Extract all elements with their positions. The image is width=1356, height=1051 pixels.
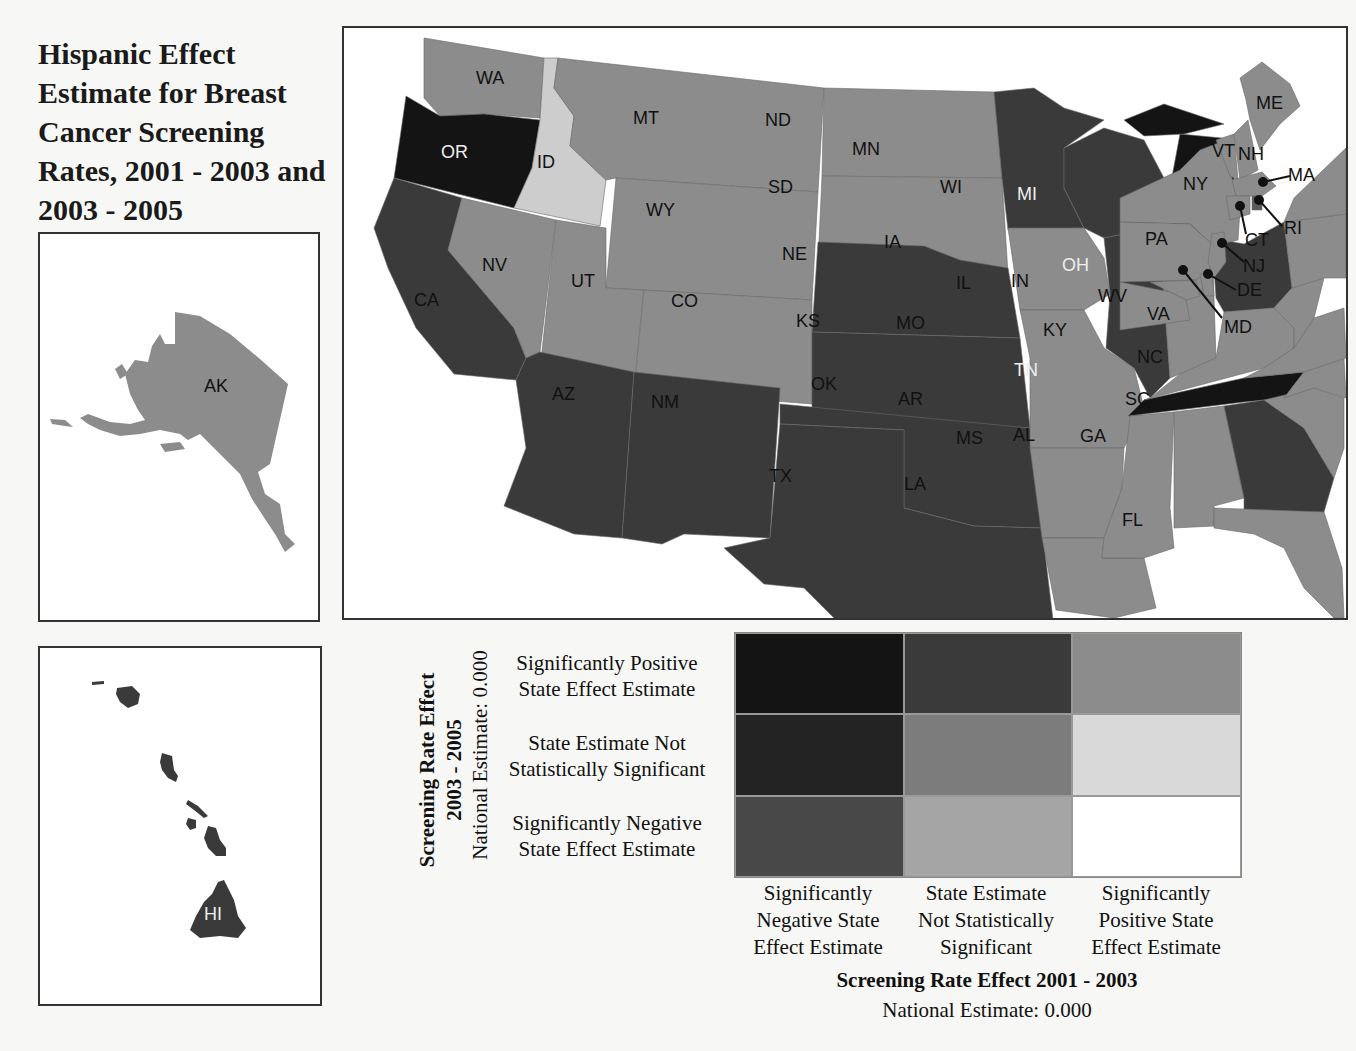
state-label-AZ: AZ	[552, 384, 575, 404]
legend-row-positive-line2: State Effect Estimate	[494, 676, 720, 702]
state-label-CT: CT	[1245, 230, 1269, 250]
state-label-TN: TN	[1014, 360, 1038, 380]
legend-row-ns-line2: Statistically Significant	[494, 756, 720, 782]
legend-cell-pos-ns	[904, 633, 1073, 714]
state-label-WV: WV	[1098, 286, 1127, 306]
state-label-TX: TX	[769, 466, 792, 486]
legend-cell-pos-neg	[735, 633, 904, 714]
legend-y-title-line2: 2003 - 2005	[441, 640, 468, 900]
state-label-CO: CO	[671, 291, 698, 311]
legend-row-negative-line1: Significantly Negative	[494, 810, 720, 836]
legend-col-negative-line2: Negative State	[734, 907, 902, 934]
state-label-MN: MN	[852, 139, 880, 159]
legend-row-positive: Significantly Positive State Effect Esti…	[494, 650, 720, 702]
legend-cell-neg-ns	[904, 796, 1073, 877]
state-label-WA: WA	[476, 68, 504, 88]
legend-cell-neg-neg	[735, 796, 904, 877]
legend-col-positive-line1: Significantly	[1072, 880, 1240, 907]
legend-row-positive-line1: Significantly Positive	[494, 650, 720, 676]
state-label-NJ: NJ	[1243, 256, 1265, 276]
legend-cell-ns-ns	[904, 714, 1073, 795]
legend-col-negative-line3: Effect Estimate	[734, 934, 902, 961]
state-label-LA: LA	[904, 474, 926, 494]
state-label-DE: DE	[1237, 280, 1262, 300]
legend-col-positive: Significantly Positive State Effect Esti…	[1072, 880, 1240, 961]
legend-y-axis-title: Screening Rate Effect 2003 - 2005	[414, 640, 474, 900]
state-label-IL: IL	[956, 273, 971, 293]
state-label-WY: WY	[646, 200, 675, 220]
legend-row-negative-line2: State Effect Estimate	[494, 836, 720, 862]
state-label-RI: RI	[1284, 218, 1302, 238]
state-MA	[1232, 172, 1276, 196]
state-label-NC: NC	[1137, 347, 1163, 367]
state-label-NE: NE	[782, 244, 807, 264]
legend-cell-pos-pos	[1072, 633, 1241, 714]
state-label-MT: MT	[633, 108, 659, 128]
state-label-IA: IA	[884, 232, 901, 252]
legend-col-positive-line2: Positive State	[1072, 907, 1240, 934]
state-label-SC: SC	[1125, 389, 1150, 409]
legend-cell-ns-pos	[1072, 714, 1241, 795]
legend-col-ns-line1: State Estimate	[902, 880, 1070, 907]
state-label-KY: KY	[1043, 320, 1067, 340]
state-label-IN: IN	[1011, 271, 1029, 291]
state-label-AR: AR	[898, 389, 923, 409]
state-label-MS: MS	[956, 428, 983, 448]
legend-y-title-line1: Screening Rate Effect	[414, 640, 441, 900]
state-label-NM: NM	[651, 392, 679, 412]
legend-cell-neg-pos	[1072, 796, 1241, 877]
state-label-MD: MD	[1224, 317, 1252, 337]
legend-col-not-significant: State Estimate Not Statistically Signifi…	[902, 880, 1070, 961]
legend-col-negative: Significantly Negative State Effect Esti…	[734, 880, 902, 961]
legend-col-negative-line1: Significantly	[734, 880, 902, 907]
state-label-NY: NY	[1183, 174, 1208, 194]
state-label-UT: UT	[571, 271, 595, 291]
legend-x-national-estimate: National Estimate: 0.000	[734, 998, 1240, 1023]
legend-y-national-estimate: National Estimate: 0.000	[467, 625, 497, 885]
legend-row-ns-line1: State Estimate Not	[494, 730, 720, 756]
bivariate-legend-grid	[734, 632, 1242, 878]
state-label-PA: PA	[1145, 229, 1168, 249]
state-label-OR: OR	[441, 142, 468, 162]
state-label-NH: NH	[1238, 144, 1264, 164]
state-label-SD: SD	[768, 177, 793, 197]
state-label-GA: GA	[1080, 426, 1106, 446]
legend-col-ns-line3: Significant	[902, 934, 1070, 961]
legend-cell-ns-neg	[735, 714, 904, 795]
legend-row-not-significant: State Estimate Not Statistically Signifi…	[494, 730, 720, 782]
state-label-MO: MO	[896, 313, 925, 333]
state-label-VT: VT	[1212, 141, 1235, 161]
state-label-OK: OK	[811, 374, 837, 394]
legend-col-positive-line3: Effect Estimate	[1072, 934, 1240, 961]
state-label-OH: OH	[1062, 255, 1089, 275]
state-label-ME: ME	[1256, 93, 1283, 113]
state-label-ID: ID	[537, 152, 555, 172]
state-label-AL: AL	[1013, 425, 1035, 445]
state-label-CA: CA	[414, 290, 439, 310]
state-label-ND: ND	[765, 110, 791, 130]
state-label-NV: NV	[482, 255, 507, 275]
state-label-MA: MA	[1288, 165, 1315, 185]
legend-col-ns-line2: Not Statistically	[902, 907, 1070, 934]
state-label-WI: WI	[940, 177, 962, 197]
state-label-FL: FL	[1122, 510, 1143, 530]
legend-row-negative: Significantly Negative State Effect Esti…	[494, 810, 720, 862]
state-label-VA: VA	[1147, 304, 1170, 324]
legend-x-axis-title: Screening Rate Effect 2001 - 2003	[734, 968, 1240, 993]
state-label-MI: MI	[1017, 184, 1037, 204]
state-label-KS: KS	[796, 311, 820, 331]
